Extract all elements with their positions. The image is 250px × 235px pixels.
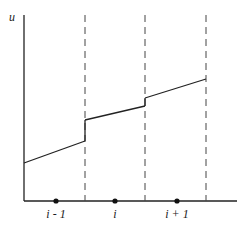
segment-cell-i [85, 106, 145, 120]
node-label-i-minus-1: i - 1 [46, 207, 65, 221]
y-axis-label: u [9, 10, 15, 24]
segment-cell-i-minus-1 [24, 141, 85, 163]
node-dot-i-minus-1 [53, 198, 58, 203]
piecewise-reconstruction-diagram: u i - 1 i i + 1 [0, 0, 250, 235]
node-label-i: i [113, 207, 116, 221]
node-dot-i-plus-1 [174, 198, 179, 203]
segment-cell-i-plus-1 [145, 79, 206, 98]
node-dot-i [112, 198, 117, 203]
node-label-i-plus-1: i + 1 [165, 207, 188, 221]
